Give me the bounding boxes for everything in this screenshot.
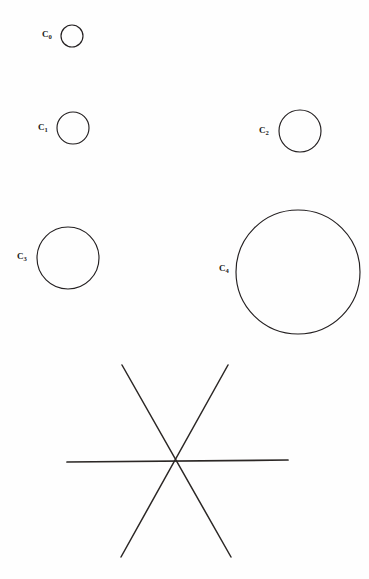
circle-group (37, 25, 360, 334)
figure-drawing (0, 0, 369, 579)
circle-label-c2: C2 (259, 126, 269, 135)
circle-c3 (37, 227, 99, 289)
asterisk-group (67, 365, 288, 557)
circle-c2 (279, 110, 321, 152)
circle-c4 (236, 210, 360, 334)
circle-label-c4: C4 (219, 264, 229, 273)
circle-c1 (57, 112, 89, 144)
circle-label-c1: C1 (38, 123, 48, 132)
circle-c0 (61, 25, 83, 47)
circle-label-c3: C3 (17, 252, 27, 261)
figure-canvas: C0 C1 C2 C3 C4 (0, 0, 369, 579)
circle-label-c0: C0 (42, 30, 52, 39)
